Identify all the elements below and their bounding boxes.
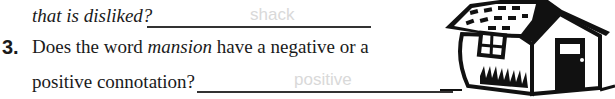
answer-2-text[interactable]: shack [250, 5, 294, 25]
question-3-text-before: Does the word [32, 36, 148, 57]
answer-3-text[interactable]: positive [294, 70, 352, 90]
question-3-number: 3. [2, 36, 19, 59]
answer-line-3 [197, 91, 453, 93]
question-3-text: Does the word mansion have a negative or… [32, 36, 369, 58]
house-clipart-icon [440, 0, 615, 99]
answer-line-2 [147, 26, 371, 28]
question-3-text-after: have a negative or a [212, 36, 369, 57]
question-2-continuation: that is disliked? [32, 5, 152, 27]
question-3-line-2: positive connotation? [32, 71, 195, 93]
question-3-emphasis: mansion [148, 36, 212, 57]
